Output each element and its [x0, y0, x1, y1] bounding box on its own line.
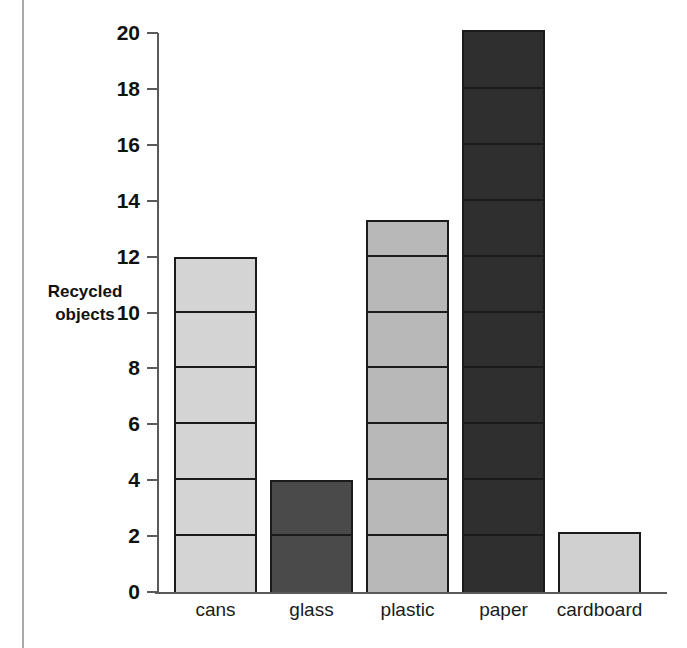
bar-cans — [174, 257, 257, 592]
bar-segment-divider — [368, 534, 447, 536]
y-tick-label: 6 — [95, 413, 140, 435]
y-tick-mark — [147, 256, 158, 258]
y-tick-mark — [147, 423, 158, 425]
y-tick-label: 2 — [95, 525, 140, 547]
bar-segment-divider — [176, 534, 255, 536]
y-tick-label-text: 6 — [100, 413, 140, 434]
y-tick-mark — [147, 535, 158, 537]
chart-page: Recycled objects 02468101214161820 cansg… — [0, 0, 687, 648]
y-tick-mark — [147, 479, 158, 481]
y-tick-mark — [147, 591, 158, 593]
bar-segment-divider — [176, 422, 255, 424]
y-tick-label-text: 12 — [100, 246, 140, 267]
bar-segment-divider — [368, 422, 447, 424]
y-tick-label: 16 — [95, 134, 140, 156]
bar-segment-divider — [272, 534, 351, 536]
y-tick-label-text: 0 — [100, 581, 140, 602]
y-tick-label-text: 2 — [100, 525, 140, 546]
y-tick-mark — [147, 312, 158, 314]
y-tick-mark — [147, 32, 158, 34]
x-axis-line — [155, 592, 667, 594]
y-tick-label-text: 10 — [100, 302, 140, 323]
y-tick-label-text: 8 — [100, 357, 140, 378]
bar-plastic — [366, 220, 449, 592]
bar-glass — [270, 480, 353, 592]
bar-paper — [462, 30, 545, 592]
bar-segment-divider — [464, 534, 543, 536]
y-tick-mark — [147, 200, 158, 202]
bar-segment-divider — [464, 143, 543, 145]
plot-area — [159, 0, 667, 592]
y-tick-label: 10 — [95, 302, 140, 324]
bar-cardboard — [558, 532, 641, 592]
bar-segment-divider — [176, 478, 255, 480]
y-tick-label: 12 — [95, 246, 140, 268]
x-label-cardboard: cardboard — [540, 600, 659, 619]
y-tick-label: 4 — [95, 469, 140, 491]
bar-segment-divider — [176, 366, 255, 368]
y-tick-label-text: 18 — [100, 78, 140, 99]
bar-segment-divider — [464, 422, 543, 424]
bar-segment-divider — [464, 199, 543, 201]
bar-segment-divider — [464, 311, 543, 313]
y-tick-label: 8 — [95, 357, 140, 379]
y-tick-label-text: 16 — [100, 134, 140, 155]
y-tick-label: 20 — [95, 22, 140, 44]
bar-segment-divider — [464, 87, 543, 89]
bar-segment-divider — [368, 311, 447, 313]
y-tick-label: 14 — [95, 190, 140, 212]
y-tick-mark — [147, 88, 158, 90]
y-tick-label: 0 — [95, 581, 140, 603]
bar-segment-divider — [368, 366, 447, 368]
page-edge-line — [22, 0, 24, 648]
y-tick-label-text: 14 — [100, 190, 140, 211]
bar-segment-divider — [368, 255, 447, 257]
bar-segment-divider — [464, 366, 543, 368]
y-tick-label-text: 20 — [100, 22, 140, 43]
bar-segment-divider — [368, 478, 447, 480]
bar-segment-divider — [464, 478, 543, 480]
y-tick-mark — [147, 144, 158, 146]
bar-segment-divider — [464, 255, 543, 257]
bar-segment-divider — [176, 311, 255, 313]
y-tick-label: 18 — [95, 78, 140, 100]
y-tick-label-text: 4 — [100, 469, 140, 490]
y-tick-mark — [147, 367, 158, 369]
